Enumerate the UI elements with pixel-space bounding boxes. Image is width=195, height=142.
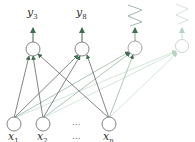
input-label-xn: xn [103,130,114,142]
output-arrows [33,28,182,42]
zigzag-icon [128,5,142,26]
network-graph [0,0,195,142]
ellipsis-labels: ... [72,131,81,141]
edges-node-3 [14,52,133,118]
faded-edges [14,51,177,118]
ellipsis-nodes: ... [72,117,81,127]
zigzag-icon-faded [176,4,188,24]
output-label-y8: y8 [76,6,87,21]
input-label-x1: x1 [8,130,19,142]
input-label-x2: x2 [37,130,48,142]
output-label-y3: y3 [27,6,38,21]
neural-network-diagram: y3 y8 x1 x2 xn ... ... [0,0,195,142]
